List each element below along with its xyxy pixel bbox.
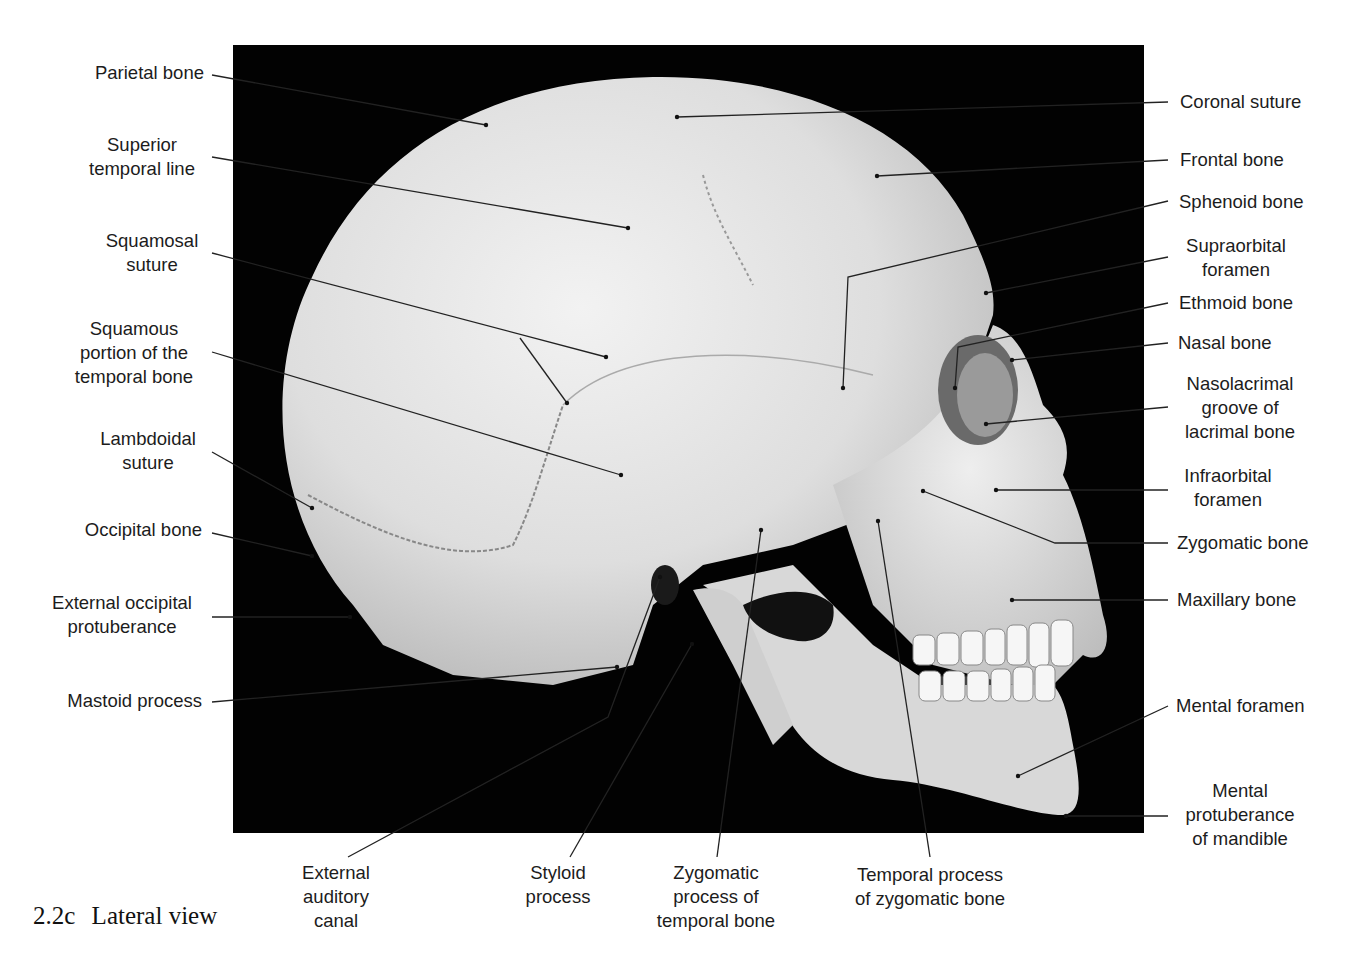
label-occipital-bone: Occipital bone: [85, 518, 202, 542]
label-nasolacrimal-groove: Nasolacrimal groove of lacrimal bone: [1170, 372, 1310, 444]
label-zygomatic-bone: Zygomatic bone: [1177, 531, 1309, 555]
caption-title: Lateral view: [92, 902, 218, 929]
label-temporal-process: Temporal process of zygomatic bone: [840, 863, 1020, 911]
label-sphenoid-bone: Sphenoid bone: [1179, 190, 1303, 214]
label-frontal-bone: Frontal bone: [1180, 148, 1284, 172]
label-infraorbital-foramen: Infraorbital foramen: [1168, 464, 1288, 512]
label-squamosal-suture: Squamosal suture: [90, 229, 214, 277]
label-nasal-bone: Nasal bone: [1178, 331, 1272, 355]
label-mental-protuberance: Mental protuberance of mandible: [1172, 779, 1308, 851]
skull-photo: [233, 45, 1144, 833]
skull-illustration: [233, 45, 1144, 833]
label-mastoid-process: Mastoid process: [67, 689, 202, 713]
figure-caption: 2.2c Lateral view: [33, 902, 217, 930]
label-zygomatic-process: Zygomatic process of temporal bone: [646, 861, 786, 933]
label-maxillary-bone: Maxillary bone: [1177, 588, 1296, 612]
label-coronal-suture: Coronal suture: [1180, 90, 1301, 114]
label-external-auditory-canal: External auditory canal: [286, 861, 386, 933]
ear-canal: [651, 565, 679, 605]
label-superior-temporal-line: Superior temporal line: [80, 133, 204, 181]
label-squamous-portion: Squamous portion of the temporal bone: [64, 317, 204, 389]
label-external-occipital-protuberance: External occipital protuberance: [40, 591, 204, 639]
label-parietal-bone: Parietal bone: [95, 61, 204, 85]
caption-number: 2.2c: [33, 902, 75, 929]
label-mental-foramen: Mental foramen: [1176, 694, 1305, 718]
label-lambdoidal-suture: Lambdoidal suture: [86, 427, 210, 475]
label-styloid-process: Styloid process: [508, 861, 608, 909]
label-ethmoid-bone: Ethmoid bone: [1179, 291, 1293, 315]
label-supraorbital-foramen: Supraorbital foramen: [1176, 234, 1296, 282]
